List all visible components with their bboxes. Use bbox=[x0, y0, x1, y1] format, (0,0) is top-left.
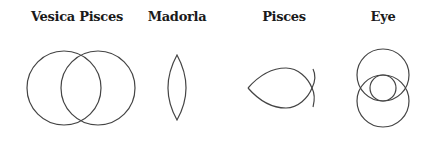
fish-lower-curve bbox=[248, 69, 315, 108]
right-circle bbox=[61, 51, 135, 125]
fish-upper-curve bbox=[248, 68, 314, 107]
eye-iris-circle bbox=[370, 75, 396, 101]
madorla-figure bbox=[168, 55, 186, 120]
madorla-shape bbox=[168, 55, 186, 120]
eye-figure bbox=[357, 49, 409, 127]
vesica-pisces-figure bbox=[27, 51, 135, 125]
pisces-figure bbox=[248, 68, 315, 108]
diagram-canvas bbox=[0, 0, 426, 141]
left-circle bbox=[27, 51, 101, 125]
